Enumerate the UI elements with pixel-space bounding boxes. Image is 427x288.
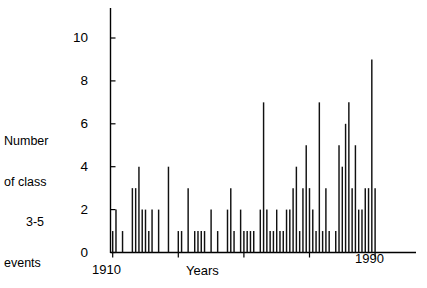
chart-figure: Number of class 3-5 events Years 10 8 6 … [0, 0, 427, 288]
x-tick-marks [113, 253, 375, 258]
plot-area [0, 0, 427, 288]
bars-group [113, 59, 375, 252]
y-tick-marks [111, 38, 116, 253]
